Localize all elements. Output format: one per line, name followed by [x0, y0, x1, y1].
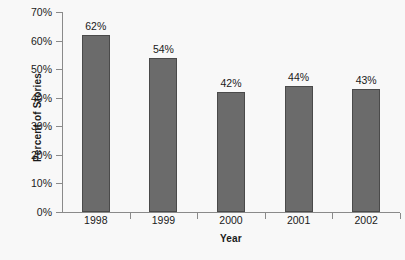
x-axis-line [62, 212, 400, 213]
x-axis-category-label: 2001 [269, 215, 329, 226]
y-axis-tick [56, 183, 62, 184]
x-axis-tick [197, 213, 198, 219]
y-axis-tick-label: 10% [0, 178, 52, 189]
x-axis-tick [265, 213, 266, 219]
y-axis-tick-label: 50% [0, 64, 52, 75]
bar-value-label: 54% [133, 44, 193, 55]
x-axis-category-label: 2000 [201, 215, 261, 226]
y-axis-tick [56, 155, 62, 156]
x-axis-tick [130, 213, 131, 219]
y-axis-tick-label: 20% [0, 150, 52, 161]
bar [82, 35, 110, 212]
y-axis-tick [56, 41, 62, 42]
x-axis-tick [332, 213, 333, 219]
bar [352, 89, 380, 212]
bar-value-label: 44% [269, 72, 329, 83]
bar-chart: Percent of Stories 0%10%20%30%40%50%60%7… [0, 0, 405, 260]
y-axis-tick [56, 212, 62, 213]
bar-value-label: 42% [201, 78, 261, 89]
y-axis-tick-label: 0% [0, 207, 52, 218]
y-axis-tick-label: 70% [0, 7, 52, 18]
x-axis-category-label: 1998 [66, 215, 126, 226]
bar [217, 92, 245, 212]
y-axis-tick [56, 69, 62, 70]
bar-value-label: 43% [336, 75, 396, 86]
y-axis-tick [56, 98, 62, 99]
bar-value-label: 62% [66, 21, 126, 32]
bar [285, 86, 313, 212]
y-axis-line [62, 12, 63, 213]
y-axis-tick [56, 12, 62, 13]
x-axis-category-label: 2002 [336, 215, 396, 226]
y-axis-tick-label: 60% [0, 36, 52, 47]
y-axis-tick-label: 30% [0, 121, 52, 132]
bar [149, 58, 177, 212]
y-axis-tick [56, 126, 62, 127]
x-axis-title: Year [62, 233, 400, 244]
x-axis-tick [400, 213, 401, 219]
y-axis-tick-label: 40% [0, 93, 52, 104]
x-axis-category-label: 1999 [133, 215, 193, 226]
